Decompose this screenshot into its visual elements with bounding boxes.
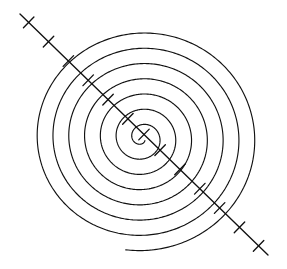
spiral-figure-svg <box>0 0 287 269</box>
figure-canvas <box>0 0 287 269</box>
